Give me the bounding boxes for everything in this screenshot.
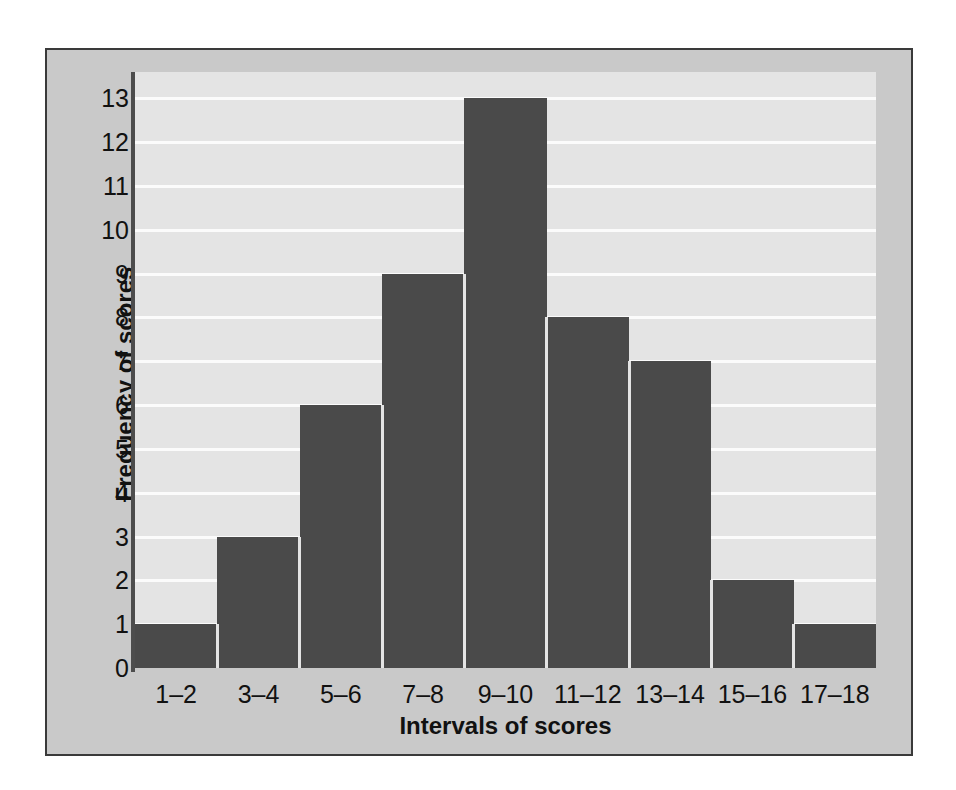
y-axis-tick-label: 11 <box>89 173 129 198</box>
bar-separator <box>545 317 548 668</box>
y-axis-tick-label: 7 <box>89 349 129 374</box>
bar <box>629 361 711 668</box>
bar-separator <box>792 624 795 668</box>
bar-separator <box>216 624 219 668</box>
bar <box>711 580 793 668</box>
x-axis-tick-label: 17–18 <box>794 676 876 712</box>
bar <box>217 537 299 668</box>
y-axis-tick-label: 5 <box>89 436 129 461</box>
y-axis-tick-label: 6 <box>89 393 129 418</box>
y-axis-tick-label: 13 <box>89 86 129 111</box>
bars-layer <box>135 72 876 668</box>
bar-separator <box>628 361 631 668</box>
bar-separator <box>381 405 384 668</box>
bar-separator <box>463 274 466 668</box>
bar <box>794 624 876 668</box>
plot-area <box>135 72 876 668</box>
y-axis-tick-labels: 131211109876543210 <box>77 50 129 754</box>
x-axis-tick-label: 7–8 <box>382 676 464 712</box>
bar <box>464 98 546 668</box>
x-axis-tick-label: 1–2 <box>135 676 217 712</box>
figure-frame: Frequency of scores 131211109876543210 1… <box>45 48 913 756</box>
y-axis-tick-label: 1 <box>89 612 129 637</box>
bar-separator <box>710 580 713 668</box>
y-axis-tick-label: 4 <box>89 480 129 505</box>
y-axis-tick-label: 2 <box>89 568 129 593</box>
x-axis-title: Intervals of scores <box>135 712 876 740</box>
y-axis-tick-label: 12 <box>89 130 129 155</box>
x-axis-tick-label: 5–6 <box>300 676 382 712</box>
x-axis-tick-labels: 1–23–45–67–89–1011–1213–1415–1617–18 <box>135 676 876 712</box>
bar <box>300 405 382 668</box>
y-axis-tick-label: 0 <box>89 656 129 681</box>
x-axis-tick-label: 11–12 <box>547 676 629 712</box>
x-axis-tick-label: 13–14 <box>629 676 711 712</box>
bar-separator <box>298 537 301 668</box>
bar <box>382 274 464 668</box>
y-axis-tick-label: 8 <box>89 305 129 330</box>
y-axis-tick-label: 3 <box>89 524 129 549</box>
bar <box>547 317 629 668</box>
x-axis-tick-label: 9–10 <box>464 676 546 712</box>
x-axis-tick-label: 15–16 <box>711 676 793 712</box>
y-axis-tick-label: 10 <box>89 217 129 242</box>
x-axis-tick-label: 3–4 <box>217 676 299 712</box>
y-axis-tick-label: 9 <box>89 261 129 286</box>
bar <box>135 624 217 668</box>
